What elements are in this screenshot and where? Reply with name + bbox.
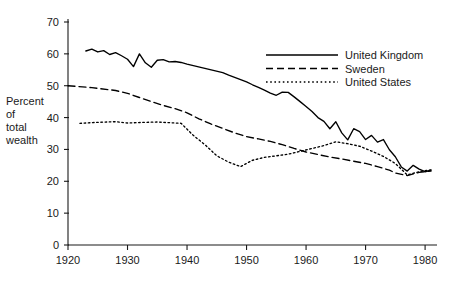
y-tick-label-70: 70 (47, 16, 59, 28)
x-tick-label-1930: 1930 (115, 254, 139, 266)
y-tick-label-60: 60 (47, 48, 59, 60)
x-tick-label-1980: 1980 (413, 254, 437, 266)
y-tick-label-0: 0 (53, 239, 59, 251)
x-tick-label-1960: 1960 (294, 254, 318, 266)
chart-canvas: 010203040506070 192019301940195019601970… (0, 0, 450, 288)
y-tick-label-30: 30 (47, 143, 59, 155)
x-tick-label-1950: 1950 (234, 254, 258, 266)
legend-label-sweden: Sweden (345, 63, 385, 75)
y-axis-title-line-2: total (6, 121, 27, 133)
x-tick-label-1940: 1940 (175, 254, 199, 266)
x-tick-label-1920: 1920 (56, 254, 80, 266)
y-axis-title-line-1: of (6, 108, 16, 120)
y-tick-label-40: 40 (47, 112, 59, 124)
y-tick-label-50: 50 (47, 80, 59, 92)
legend-label-united-kingdom: United Kingdom (345, 49, 423, 61)
legend-label-united-states: United States (345, 76, 412, 88)
x-axis: 1920193019401950196019701980 (56, 245, 438, 266)
y-tick-label-10: 10 (47, 207, 59, 219)
y-axis-title-line-3: wealth (5, 134, 38, 146)
y-axis-title: Percentoftotalwealth (5, 95, 44, 146)
x-tick-label-1970: 1970 (353, 254, 377, 266)
wealth-distribution-chart: 010203040506070 192019301940195019601970… (0, 0, 450, 288)
y-tick-label-20: 20 (47, 175, 59, 187)
chart-legend: United KingdomSwedenUnited States (266, 49, 423, 88)
y-axis: 010203040506070 (47, 16, 69, 251)
y-axis-title-line-0: Percent (6, 95, 44, 107)
